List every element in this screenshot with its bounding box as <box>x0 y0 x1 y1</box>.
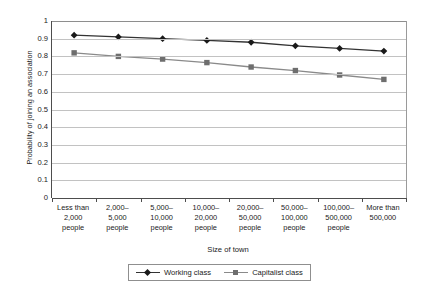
legend-label: Capitalist class <box>252 268 303 277</box>
data-point-marker <box>204 60 209 65</box>
legend-swatch-marker <box>144 269 151 276</box>
gridline <box>52 127 406 128</box>
x-axis-tick-mark <box>185 198 186 202</box>
x-axis-tick-mark <box>273 198 274 202</box>
data-point-marker <box>380 48 387 55</box>
y-axis-tick-label: 0.4 <box>22 123 48 131</box>
y-axis-tick-label: 0.9 <box>22 35 48 43</box>
x-axis-tick-mark <box>141 198 142 202</box>
data-point-marker <box>248 39 255 46</box>
diamond-marker-icon <box>136 268 160 277</box>
x-axis-tick-label-line: people <box>311 223 367 233</box>
chart-container: Probability of joining an association 10… <box>0 0 424 299</box>
series-1 <box>71 32 388 55</box>
legend-swatch-marker <box>233 270 238 275</box>
gridline <box>52 74 406 75</box>
data-point-marker <box>381 77 386 82</box>
x-axis-tick-label-line: More than <box>355 203 411 213</box>
y-axis-tick-label: 0.8 <box>22 52 48 60</box>
x-axis-tick-mark <box>229 198 230 202</box>
y-axis-tick-label: 0.7 <box>22 70 48 78</box>
gridline <box>52 92 406 93</box>
gridline <box>52 56 406 57</box>
data-point-marker <box>248 64 253 69</box>
y-axis-tick-label: 0 <box>22 194 48 202</box>
data-point-marker <box>293 68 298 73</box>
gridline <box>52 110 406 111</box>
x-axis-tick-mark <box>52 198 53 202</box>
x-axis-tick-label-line: 500,000 <box>355 213 411 223</box>
data-point-marker <box>336 45 343 52</box>
y-axis-tick-label: 0.6 <box>22 88 48 96</box>
data-point-marker <box>71 32 78 39</box>
chart-legend: Working classCapitalist class <box>128 264 311 281</box>
legend-entry: Working class <box>136 268 211 277</box>
series-2 <box>71 50 386 82</box>
x-axis-tick-mark <box>362 198 363 202</box>
gridline <box>52 163 406 164</box>
gridline <box>52 180 406 181</box>
square-marker-icon <box>224 268 248 277</box>
y-axis-tick-label: 0.1 <box>22 176 48 184</box>
plot-area <box>51 21 407 198</box>
y-axis-tick-label: 0.2 <box>22 159 48 167</box>
gridline <box>52 39 406 40</box>
x-axis-tick-mark <box>406 198 407 202</box>
y-axis-tick-label: 0.5 <box>22 106 48 114</box>
x-axis-tick-mark <box>318 198 319 202</box>
y-axis-tick-label: 0.3 <box>22 141 48 149</box>
x-axis-tick-label: More than500,000 <box>355 203 411 223</box>
data-point-marker <box>292 42 299 49</box>
gridline <box>52 145 406 146</box>
data-point-marker <box>71 50 76 55</box>
y-axis-tick-label: 1 <box>22 17 48 25</box>
gridline <box>52 21 406 22</box>
legend-entry: Capitalist class <box>224 268 303 277</box>
legend-label: Working class <box>164 268 211 277</box>
x-axis-tick-mark <box>96 198 97 202</box>
y-axis-tick-labels: 10.90.80.70.60.50.40.30.20.10 <box>22 0 48 299</box>
x-axis-title: Size of town <box>51 245 405 254</box>
x-axis-tick-labels: Less than2,000people2,000–5,000people5,0… <box>40 203 424 245</box>
